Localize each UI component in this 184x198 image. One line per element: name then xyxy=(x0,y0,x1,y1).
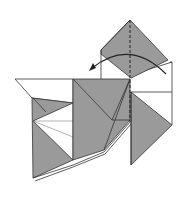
arrowhead-icon xyxy=(89,63,96,71)
origami-diagram xyxy=(0,0,184,198)
top-diamond-flap xyxy=(101,20,168,78)
central-colored-panel xyxy=(73,79,130,160)
right-colored-flap xyxy=(131,92,172,165)
right-layer-edge xyxy=(170,62,172,125)
